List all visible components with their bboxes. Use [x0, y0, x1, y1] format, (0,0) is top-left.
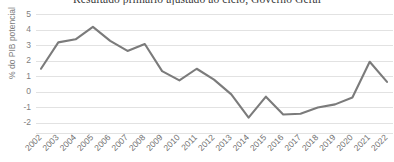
- xtick-label: 2019: [317, 132, 338, 153]
- ytick-label: -1: [23, 102, 31, 112]
- xtick-label: 2004: [58, 132, 79, 153]
- ytick-label: 4: [26, 24, 31, 34]
- ytick-label: 0: [26, 86, 31, 96]
- gridlines-group: [36, 15, 393, 134]
- xtick-label: 2011: [179, 132, 199, 152]
- xtick-label: 2010: [161, 132, 182, 153]
- xtick-label: 2020: [334, 132, 355, 153]
- xtick-label: 2017: [282, 132, 303, 153]
- xtick-label: 2016: [265, 132, 286, 153]
- xtick-label: 2007: [109, 132, 130, 153]
- chart-plot: 5 4 3 2 1 0 -1 -2 2002200320042005200620…: [0, 0, 394, 162]
- xtick-label: 2021: [352, 132, 373, 153]
- ytick-label: -2: [23, 117, 31, 127]
- xtick-label: 2006: [92, 132, 113, 153]
- xtick-label: 2008: [127, 132, 148, 153]
- xtick-label: 2015: [248, 132, 269, 153]
- x-axis-tick-labels: 2002200320042005200620072008200920102011…: [23, 132, 390, 153]
- ytick-label: 1: [26, 71, 31, 81]
- xtick-label: 2009: [144, 132, 165, 153]
- xtick-label: 2005: [75, 132, 96, 153]
- data-series-line: [41, 27, 387, 118]
- ytick-label: 2: [26, 55, 31, 65]
- xtick-label: 2013: [213, 132, 234, 153]
- xtick-label: 2003: [40, 132, 61, 153]
- xtick-label: 2022: [369, 132, 390, 153]
- y-axis-tick-labels: 5 4 3 2 1 0 -1 -2: [23, 9, 31, 128]
- xtick-label: 2014: [231, 132, 252, 153]
- chart-container: Resultado primário ajustado ao ciclo, Go…: [0, 0, 394, 162]
- xtick-label: 2012: [196, 132, 217, 153]
- xtick-label: 2002: [23, 132, 44, 153]
- ytick-label: 5: [26, 9, 31, 19]
- ytick-label: 3: [26, 40, 31, 50]
- xtick-label: 2018: [300, 132, 321, 153]
